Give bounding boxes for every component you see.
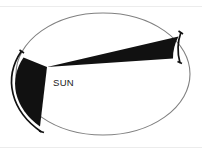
sun-label: SUN (53, 77, 74, 88)
kepler-diagram-root: SUN (0, 0, 202, 153)
orbit-diagram-canvas: SUN (0, 0, 202, 153)
